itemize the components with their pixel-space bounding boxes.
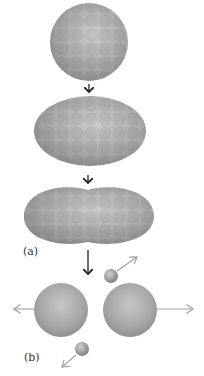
neutron-arrow-icon [62, 355, 76, 367]
neutron-lower [75, 342, 89, 356]
fission-fragment-right [103, 283, 157, 337]
label-a: (a) [23, 245, 38, 258]
spherical-nucleus [50, 3, 128, 81]
fission-diagram [0, 0, 204, 376]
label-b: (b) [24, 351, 40, 364]
necking-nucleus [24, 187, 154, 244]
neutron-upper [104, 269, 118, 283]
neutron-arrow-icon [117, 257, 137, 271]
fission-fragment-left [34, 283, 88, 337]
elongated-nucleus [34, 96, 146, 166]
